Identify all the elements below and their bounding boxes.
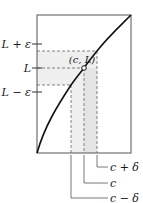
label-c-minus-delta: c − δ — [110, 192, 139, 203]
delta-band-right — [84, 68, 97, 153]
label-L-plus-epsilon: L + ε — [1, 38, 32, 51]
label-L: L — [23, 62, 31, 75]
leader-right — [97, 155, 108, 167]
leader-left — [71, 155, 108, 198]
label-c: c — [110, 177, 116, 190]
epsilon-delta-diagram: L + ε L L − ε (c, L) c + δ c c − δ — [0, 0, 143, 203]
leader-center — [84, 155, 108, 183]
label-point: (c, L) — [69, 54, 96, 65]
label-c-plus-delta: c + δ — [110, 161, 139, 174]
point-c-L — [82, 66, 87, 71]
label-L-minus-epsilon: L − ε — [1, 86, 32, 99]
